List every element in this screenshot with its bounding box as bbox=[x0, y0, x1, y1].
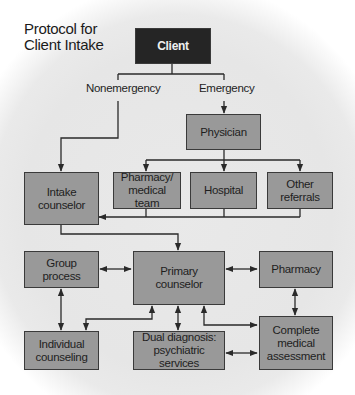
node-pharmacy-label: Pharmacy bbox=[271, 263, 320, 276]
node-group-process-line1: Group bbox=[42, 257, 80, 270]
node-client-label: Client bbox=[157, 40, 189, 53]
node-dual-diagnosis-line1: Dual diagnosis: bbox=[136, 331, 222, 344]
node-client: Client bbox=[135, 28, 211, 64]
node-individual-counseling: Individual counseling bbox=[24, 331, 99, 370]
node-pharmacy-medical-team: Pharmacy/ medical team bbox=[113, 172, 181, 209]
node-primary-counselor: Primary counselor bbox=[133, 251, 225, 305]
node-group-process: Group process bbox=[24, 251, 99, 288]
node-pharmacy-medical-team-line2: medical team bbox=[116, 184, 178, 210]
node-complete-medical-assessment-line1: Complete bbox=[267, 324, 325, 337]
node-individual-counseling-line1: Individual bbox=[36, 338, 88, 351]
node-individual-counseling-line2: counseling bbox=[36, 351, 88, 364]
label-nonemergency: Nonemergency bbox=[86, 82, 160, 94]
node-dual-diagnosis: Dual diagnosis: psychiatric services bbox=[133, 331, 225, 370]
node-other-referrals-line1: Other bbox=[280, 178, 319, 191]
node-complete-medical-assessment-line2: medical bbox=[267, 337, 325, 350]
node-primary-counselor-line1: Primary bbox=[155, 265, 202, 278]
node-intake-counselor: Intake counselor bbox=[24, 172, 99, 225]
node-physician: Physician bbox=[186, 114, 261, 150]
node-complete-medical-assessment: Complete medical assessment bbox=[259, 316, 333, 370]
node-primary-counselor-line2: counselor bbox=[155, 278, 202, 291]
node-pharmacy-medical-team-line1: Pharmacy/ bbox=[116, 171, 178, 184]
node-dual-diagnosis-line2: psychiatric services bbox=[136, 344, 222, 370]
flowchart-canvas: Protocol for Client Intake bbox=[0, 0, 355, 395]
node-physician-label: Physician bbox=[200, 126, 247, 139]
node-intake-counselor-line1: Intake bbox=[38, 186, 85, 199]
node-hospital: Hospital bbox=[190, 172, 257, 209]
node-complete-medical-assessment-line3: assessment bbox=[267, 350, 325, 363]
node-group-process-line2: process bbox=[42, 270, 80, 283]
node-hospital-label: Hospital bbox=[204, 184, 243, 197]
node-intake-counselor-line2: counselor bbox=[38, 199, 85, 212]
node-other-referrals-line2: referrals bbox=[280, 191, 319, 204]
label-emergency: Emergency bbox=[199, 82, 254, 94]
node-other-referrals: Other referrals bbox=[267, 172, 333, 209]
node-pharmacy: Pharmacy bbox=[259, 251, 333, 288]
